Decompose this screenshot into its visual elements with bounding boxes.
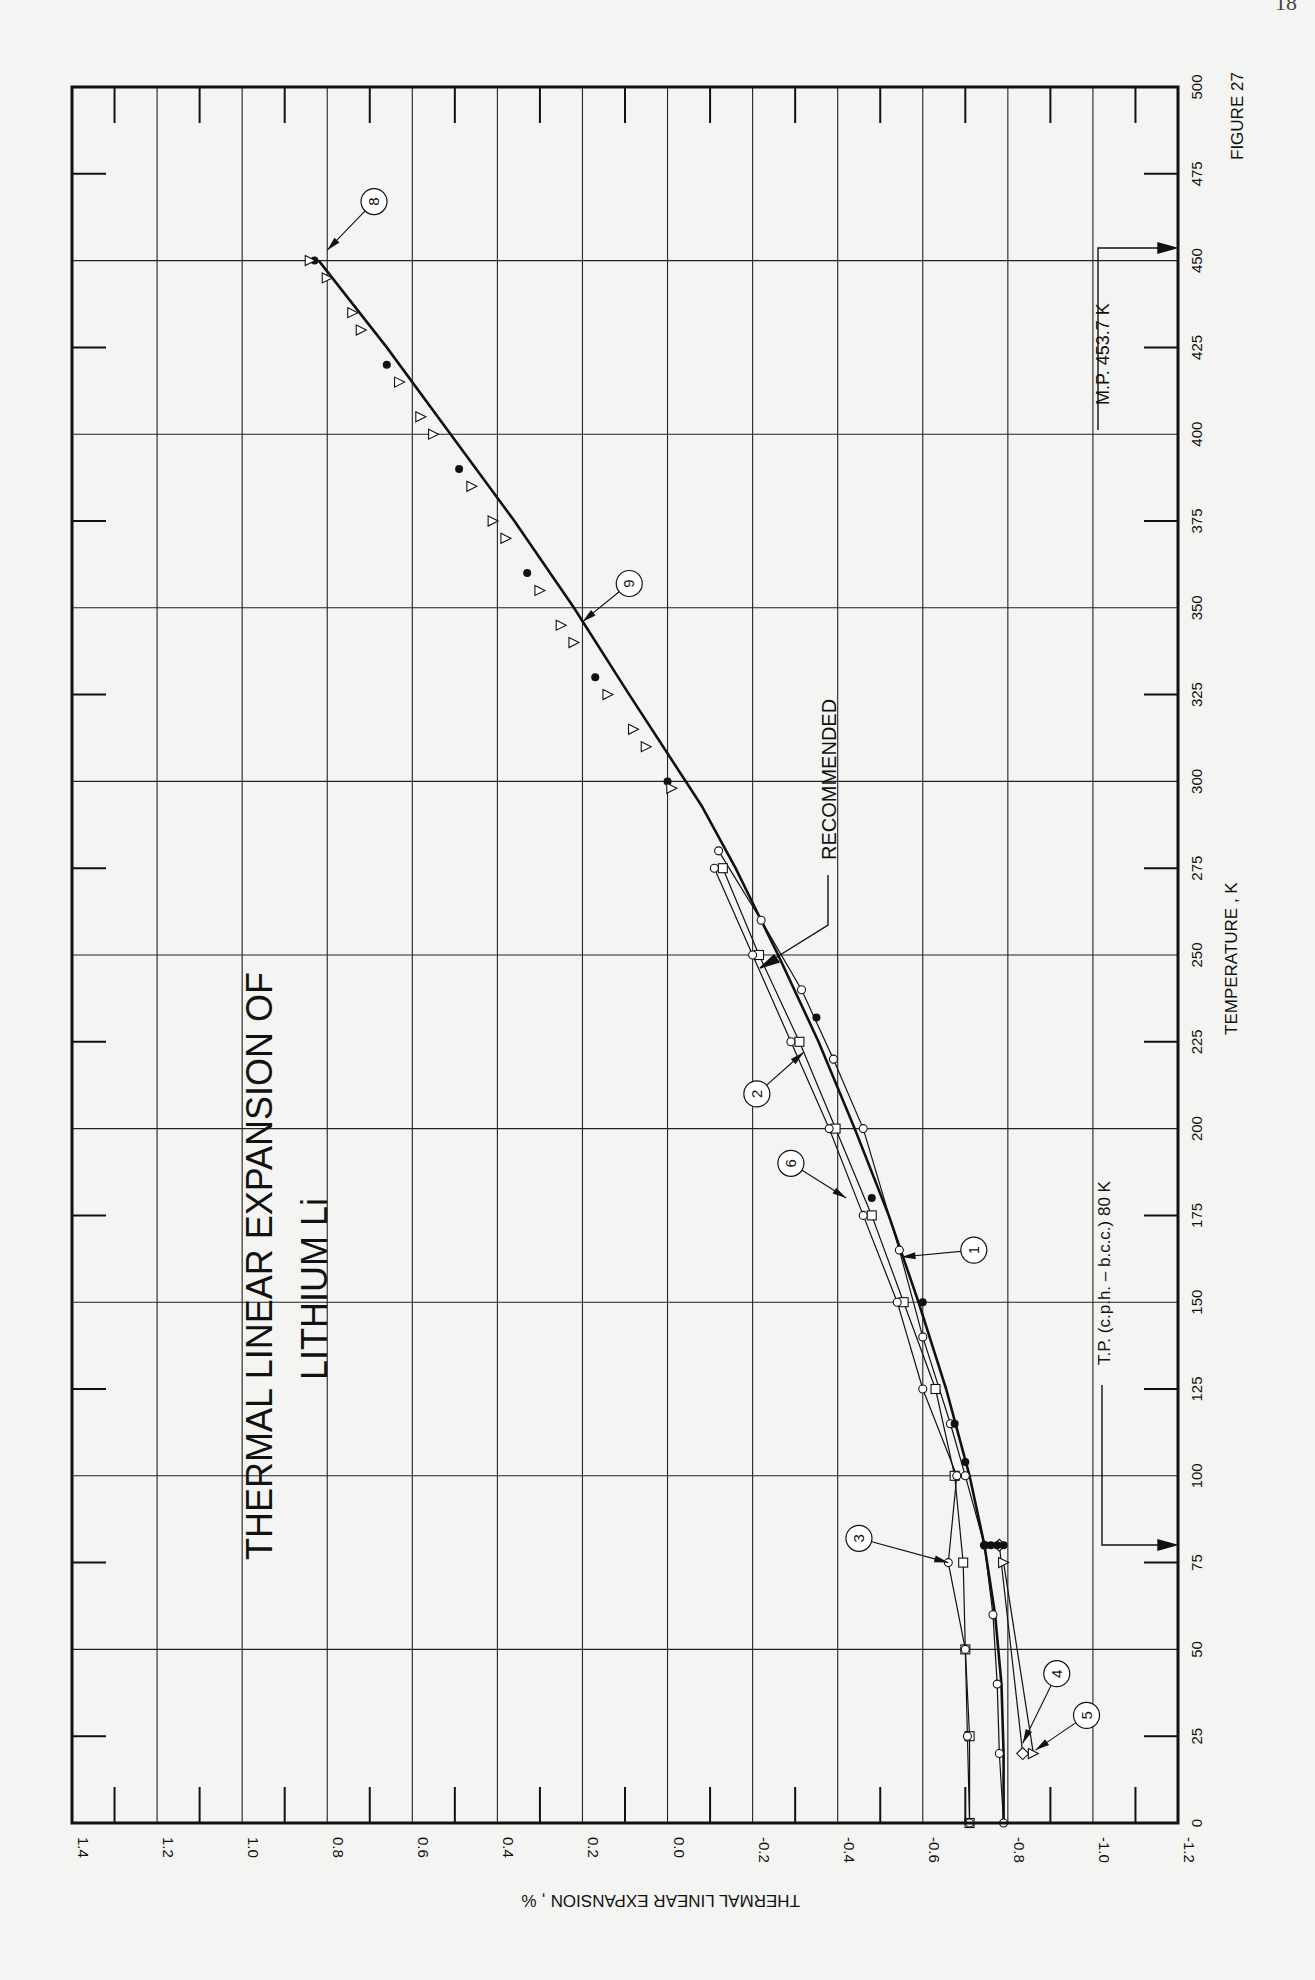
marker-triangle: [501, 533, 511, 543]
series-8: [310, 257, 671, 786]
y-tick-label: -0.4: [841, 1837, 858, 1863]
marker-circle: [859, 1211, 867, 1219]
marker-square: [718, 864, 727, 873]
x-tick-label: 150: [1188, 1290, 1205, 1315]
marker-triangle: [356, 325, 366, 335]
figure-label: FIGURE 27: [1228, 72, 1247, 160]
marker-triangle: [395, 377, 405, 387]
x-tick-label: 350: [1188, 595, 1205, 620]
marker-circle: [715, 847, 723, 855]
marker-circle: [749, 951, 757, 959]
svg-text:8: 8: [365, 197, 382, 205]
marker-triangle: [556, 620, 566, 630]
curve-label-3: 3: [846, 1525, 948, 1562]
tp-annotation: T.P. (c.p.h. – b.c.c.) 80 K: [1095, 1180, 1114, 1365]
marker-circle: [710, 864, 718, 872]
marker-dot: [523, 569, 531, 577]
marker-circle: [787, 1038, 795, 1046]
marker-circle: [859, 1125, 867, 1133]
x-tick-label: 50: [1188, 1641, 1205, 1658]
marker-circle: [989, 1611, 997, 1619]
y-tick-label: 1.4: [75, 1837, 92, 1858]
chart-title: THERMAL LINEAR EXPANSION OF: [239, 972, 280, 1560]
x-tick-label: 500: [1188, 74, 1205, 99]
marker-circle: [825, 1125, 833, 1133]
x-tick-label: 125: [1188, 1376, 1205, 1401]
marker-circle: [919, 1333, 927, 1341]
marker-triangle: [488, 516, 498, 526]
marker-circle: [798, 986, 806, 994]
y-tick-label: 0.4: [500, 1837, 517, 1858]
svg-text:9: 9: [620, 579, 637, 587]
svg-text:1: 1: [965, 1246, 982, 1254]
y-tick-label: 0.2: [585, 1837, 602, 1858]
marker-dot: [951, 1420, 959, 1428]
marker-circle: [995, 1750, 1003, 1758]
chart-subtitle: LITHIUM Li: [294, 1198, 335, 1380]
x-tick-label: 175: [1188, 1203, 1205, 1228]
marker-triangle: [467, 481, 477, 491]
x-tick-label: 425: [1188, 335, 1205, 360]
series-recommended: [319, 261, 1004, 1823]
marker-dot: [1000, 1541, 1008, 1549]
recommended-label: RECOMMENDED: [818, 699, 840, 860]
y-tick-label: -0.6: [926, 1837, 943, 1863]
recommended-leader: [760, 875, 828, 968]
y-tick-label: -1.0: [1096, 1837, 1113, 1863]
curve-label-6: 6: [778, 1150, 846, 1198]
x-tick-label: 100: [1188, 1463, 1205, 1488]
svg-text:3: 3: [850, 1534, 867, 1542]
marker-circle: [919, 1385, 927, 1393]
x-axis-title: TEMPERATURE , K: [1222, 882, 1241, 1035]
x-tick-label: 0: [1188, 1819, 1205, 1827]
marker-triangle: [429, 429, 439, 439]
x-tick-label: 475: [1188, 161, 1205, 186]
y-tick-label: 0.8: [330, 1837, 347, 1858]
y-axis-title: THERMAL LINEAR EXPANSION , %: [521, 1891, 800, 1910]
marker-circle: [893, 1298, 901, 1306]
marker-circle: [953, 1472, 961, 1480]
marker-triangle: [629, 724, 639, 734]
marker-circle: [961, 1472, 969, 1480]
marker-dot: [961, 1458, 969, 1466]
marker-triangle: [641, 742, 651, 752]
y-tick-label: 1.2: [160, 1837, 177, 1858]
marker-triangle: [535, 585, 545, 595]
x-tick-label: 200: [1188, 1116, 1205, 1141]
marker-triangle: [416, 412, 426, 422]
marker-triangle: [667, 783, 677, 793]
x-tick-label: 300: [1188, 769, 1205, 794]
marker-circle: [829, 1055, 837, 1063]
x-tick-label: 325: [1188, 682, 1205, 707]
svg-text:2: 2: [748, 1090, 765, 1098]
marker-square: [795, 1037, 804, 1046]
marker-dot: [919, 1298, 927, 1306]
y-tick-label: -0.8: [1011, 1837, 1028, 1863]
marker-circle: [895, 1246, 903, 1254]
curve-label-5: 5: [1035, 1702, 1099, 1750]
curve-label-1: 1: [902, 1237, 987, 1263]
series-3: [710, 864, 973, 1827]
thermal-expansion-chart: 12345689 1.41.21.00.80.60.40.20.0-0.2-0.…: [0, 0, 1315, 1980]
tp-arrow: [1102, 1385, 1176, 1550]
x-tick-label: 400: [1188, 422, 1205, 447]
x-tick-label: 75: [1188, 1554, 1205, 1571]
x-tick-label: 275: [1188, 856, 1205, 881]
marker-dot: [455, 465, 463, 473]
marker-circle: [963, 1732, 971, 1740]
marker-circle: [993, 1680, 1001, 1688]
x-tick-label: 250: [1188, 942, 1205, 967]
marker-triangle: [569, 638, 579, 648]
grid: [72, 87, 1178, 1823]
data-series: [305, 256, 1038, 1828]
curve-label-8: 8: [327, 189, 387, 251]
y-tick-label: 0.0: [671, 1837, 688, 1858]
y-tick-label: 0.6: [415, 1837, 432, 1858]
series-1: [715, 847, 1008, 1827]
x-tick-label: 375: [1188, 508, 1205, 533]
marker-square: [959, 1558, 968, 1567]
marker-triangle: [603, 690, 613, 700]
x-tick-label: 450: [1188, 248, 1205, 273]
svg-text:6: 6: [782, 1159, 799, 1167]
marker-square: [931, 1385, 940, 1394]
